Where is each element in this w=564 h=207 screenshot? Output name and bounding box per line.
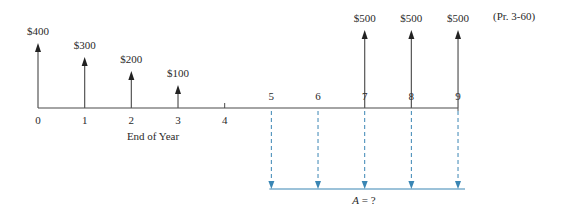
arrowhead-up-icon bbox=[35, 43, 41, 52]
tick-label-year-1: 1 bbox=[82, 114, 88, 126]
arrowhead-up-icon bbox=[362, 30, 368, 39]
inflow-amount-year-0: $400 bbox=[27, 25, 50, 37]
tick-label-year-6: 6 bbox=[315, 90, 321, 102]
annuity-unknown-label: A = ? bbox=[351, 194, 375, 206]
inflow-amount-year-3: $100 bbox=[167, 67, 190, 79]
arrowhead-up-icon bbox=[408, 30, 414, 39]
arrowhead-up-icon bbox=[175, 85, 181, 94]
inflow-amount-year-7: $500 bbox=[354, 12, 377, 24]
tick-label-year-0: 0 bbox=[35, 114, 41, 126]
tick-label-year-8: 8 bbox=[409, 90, 415, 102]
problem-reference: (Pr. 3-60) bbox=[493, 10, 536, 23]
arrowhead-up-icon bbox=[128, 71, 134, 80]
inflow-arrows bbox=[35, 30, 461, 108]
arrowhead-down-icon bbox=[362, 181, 368, 189]
cash-flow-diagram: 0123456789End of Year$400$300$200$100$50… bbox=[0, 0, 564, 207]
time-axis bbox=[38, 103, 458, 111]
tick-label-year-7: 7 bbox=[362, 90, 368, 102]
inflow-amount-year-9: $500 bbox=[447, 12, 470, 24]
arrowhead-up-icon bbox=[82, 57, 88, 66]
tick-label-year-4: 4 bbox=[222, 114, 228, 126]
inflow-amount-year-1: $300 bbox=[74, 39, 97, 51]
annuity-outflow-arrows bbox=[268, 111, 465, 189]
tick-label-year-9: 9 bbox=[455, 90, 461, 102]
arrowhead-up-icon bbox=[455, 30, 461, 39]
axis-title: End of Year bbox=[127, 130, 180, 142]
arrowhead-down-icon bbox=[268, 181, 274, 189]
arrowhead-down-icon bbox=[408, 181, 414, 189]
arrowhead-down-icon bbox=[455, 181, 461, 189]
tick-label-year-5: 5 bbox=[269, 90, 275, 102]
tick-label-year-2: 2 bbox=[129, 114, 135, 126]
inflow-amount-year-2: $200 bbox=[120, 53, 143, 65]
arrowhead-down-icon bbox=[315, 181, 321, 189]
tick-label-year-3: 3 bbox=[175, 114, 181, 126]
inflow-amount-year-8: $500 bbox=[400, 12, 423, 24]
